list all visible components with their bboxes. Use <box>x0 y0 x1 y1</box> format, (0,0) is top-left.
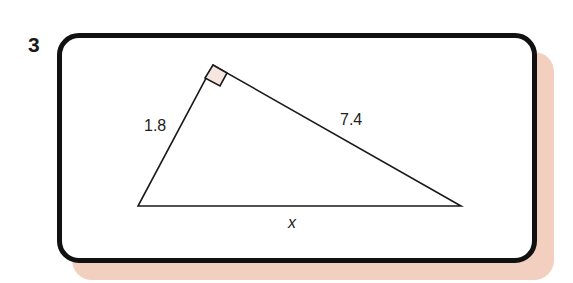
right-triangle <box>0 0 573 283</box>
side-label-bottom: x <box>288 214 296 232</box>
right-angle-marker <box>205 65 227 86</box>
side-label-right: 7.4 <box>340 111 362 129</box>
side-label-left: 1.8 <box>144 117 166 135</box>
